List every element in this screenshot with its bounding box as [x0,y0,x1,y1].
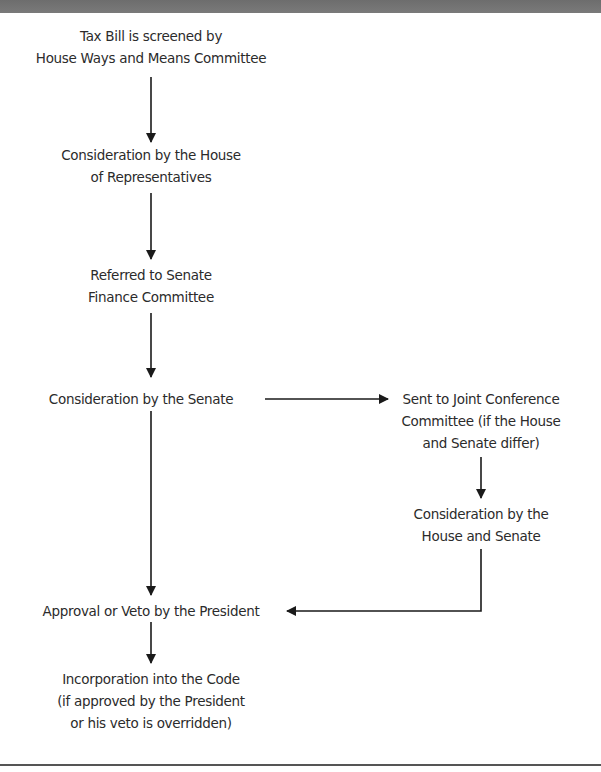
edge-n6-n7 [287,549,481,611]
node-house-senate-consideration: Consideration by the House and Senate [396,503,566,547]
node-house-ways-means: Tax Bill is screened by House Ways and M… [20,25,282,69]
bottom-rule [0,764,601,766]
node-presidential-approval: Approval or Veto by the President [20,600,282,622]
node-house-consideration: Consideration by the House of Representa… [40,144,262,188]
node-senate-finance: Referred to Senate Finance Committee [60,264,242,308]
node-senate-consideration: Consideration by the Senate [20,388,262,410]
node-joint-conference: Sent to Joint Conference Committee (if t… [386,388,576,454]
node-code-incorporation: Incorporation into the Code (if approved… [30,668,272,734]
flow-edges [0,0,601,772]
